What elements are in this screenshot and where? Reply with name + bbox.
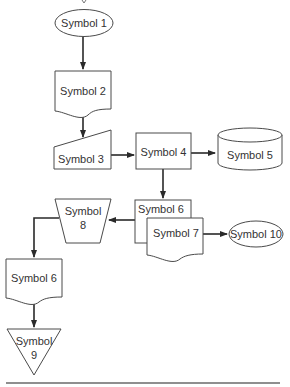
node-label-line1: Symbol: [65, 205, 102, 217]
node-label: Symbol 2: [60, 85, 106, 97]
node-label: Symbol 10: [230, 228, 282, 240]
flowchart-canvas: Symbol 1 Symbol 2 Symbol 3 Symbol 4 Symb…: [0, 0, 290, 387]
node-symbol-5[interactable]: Symbol 5: [218, 128, 282, 170]
node-label: Symbol 7: [153, 227, 199, 239]
node-symbol-4[interactable]: Symbol 4: [136, 133, 191, 169]
node-label: Symbol 6: [138, 203, 184, 215]
node-label: Symbol 6: [11, 272, 57, 284]
node-symbol-9[interactable]: Symbol 9: [7, 329, 61, 375]
node-symbol-1[interactable]: Symbol 1: [55, 10, 113, 37]
node-label: Symbol 1: [61, 17, 107, 29]
node-symbol-2[interactable]: Symbol 2: [55, 71, 111, 117]
node-symbol-10[interactable]: Symbol 10: [229, 221, 283, 247]
node-label: Symbol 5: [227, 149, 273, 161]
cylinder-top: [218, 128, 282, 142]
edge-symbol8-to-symbol6: [34, 218, 59, 257]
node-label: Symbol 4: [141, 146, 187, 158]
document-shape: [147, 218, 203, 261]
node-label: Symbol 3: [58, 153, 104, 165]
node-symbol-7[interactable]: Symbol 7: [147, 218, 203, 261]
node-symbol-6-lower[interactable]: Symbol 6: [6, 259, 62, 304]
node-label-line2: 9: [31, 349, 37, 361]
node-symbol-8[interactable]: Symbol 8: [55, 199, 111, 243]
node-label-line1: Symbol: [16, 335, 53, 347]
node-label-line2: 8: [80, 219, 86, 231]
cropped-title-remnant: [82, 0, 86, 3]
